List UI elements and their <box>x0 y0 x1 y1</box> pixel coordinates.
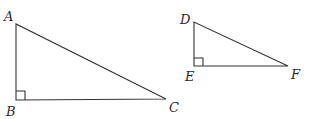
triangle-abc-outline <box>16 24 166 100</box>
vertex-label-b: B <box>5 104 16 119</box>
triangles-diagram: A B C D E F <box>0 0 314 119</box>
vertex-label-d: D <box>179 12 191 27</box>
right-angle-marker-b <box>16 91 25 100</box>
vertex-label-e: E <box>184 69 195 84</box>
vertex-label-c: C <box>169 100 179 115</box>
triangle-abc: A B C <box>3 9 179 119</box>
vertex-label-a: A <box>3 9 13 24</box>
triangle-def-outline <box>194 22 288 66</box>
triangle-def: D E F <box>179 12 301 84</box>
vertex-label-f: F <box>290 67 301 82</box>
right-angle-marker-e <box>194 58 203 66</box>
